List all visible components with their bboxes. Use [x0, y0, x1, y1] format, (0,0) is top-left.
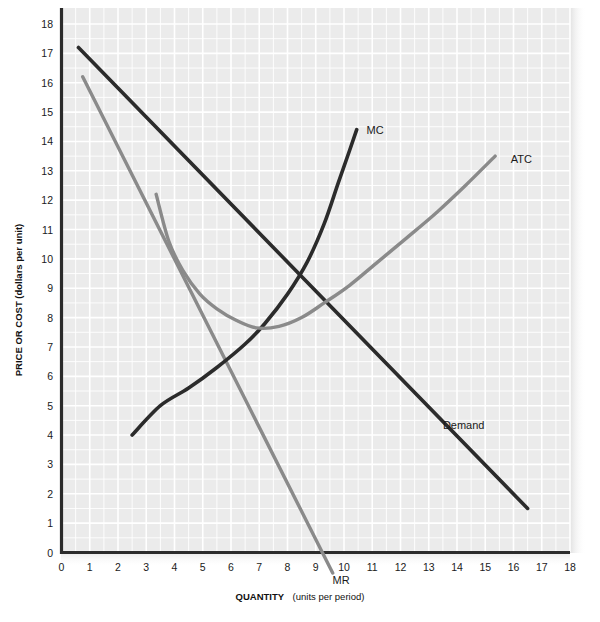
- x-axis-title-normal: (units per period): [293, 591, 365, 602]
- x-tick-label: 7: [256, 561, 262, 573]
- y-tick-label: 4: [47, 429, 53, 441]
- economics-chart: 0123456789101112131415161718 01234567891…: [0, 0, 600, 622]
- x-tick-label: 15: [479, 561, 491, 573]
- y-tick-label: 12: [41, 194, 53, 206]
- x-axis-title-bold: QUANTITY: [236, 591, 285, 602]
- x-tick-label: 14: [451, 561, 463, 573]
- x-tick-label: 13: [423, 561, 435, 573]
- x-tick-label: 1: [87, 561, 93, 573]
- x-tick-label: 2: [115, 561, 121, 573]
- mc-label: MC: [367, 124, 384, 136]
- y-tick-label: 0: [47, 547, 53, 559]
- y-axis-title-text: PRICE OR COST (dollars per unit): [13, 224, 24, 377]
- y-tick-label: 17: [41, 47, 53, 59]
- x-tick-label: 11: [367, 561, 378, 573]
- x-tick-label: 8: [285, 561, 291, 573]
- y-tick-label: 14: [41, 135, 53, 147]
- y-tick-label: 3: [47, 458, 53, 470]
- x-tick-label: 4: [172, 561, 178, 573]
- x-tick-label: 12: [395, 561, 407, 573]
- y-tick-label: 11: [42, 224, 53, 236]
- mr-label: MR: [333, 574, 350, 586]
- x-tick-label: 17: [536, 561, 548, 573]
- x-tick-label: 6: [228, 561, 234, 573]
- y-tick-label: 7: [47, 341, 53, 353]
- y-tick-label: 15: [41, 106, 53, 118]
- y-tick-label: 10: [41, 253, 53, 265]
- chart-canvas: 0123456789101112131415161718 01234567891…: [0, 0, 600, 622]
- x-tick-label: 10: [338, 561, 350, 573]
- demand-label: Demand: [443, 419, 485, 431]
- y-tick-label: 18: [41, 18, 53, 30]
- x-tick-label: 18: [564, 561, 576, 573]
- atc-label: ATC: [511, 153, 532, 165]
- y-tick-label: 8: [47, 312, 53, 324]
- x-tick-label: 5: [200, 561, 206, 573]
- x-tick-label: 0: [59, 561, 65, 573]
- y-axis-title: PRICE OR COST (dollars per unit): [13, 224, 24, 377]
- x-tick-label: 3: [143, 561, 149, 573]
- x-tick-label: 16: [508, 561, 520, 573]
- y-tick-label: 13: [41, 165, 53, 177]
- y-tick-label: 5: [47, 400, 53, 412]
- y-tick-label: 6: [47, 370, 53, 382]
- y-tick-label: 2: [47, 488, 53, 500]
- y-tick-label: 16: [41, 77, 53, 89]
- y-tick-label: 9: [47, 282, 53, 294]
- y-tick-label: 1: [47, 517, 53, 529]
- x-tick-label: 9: [313, 561, 319, 573]
